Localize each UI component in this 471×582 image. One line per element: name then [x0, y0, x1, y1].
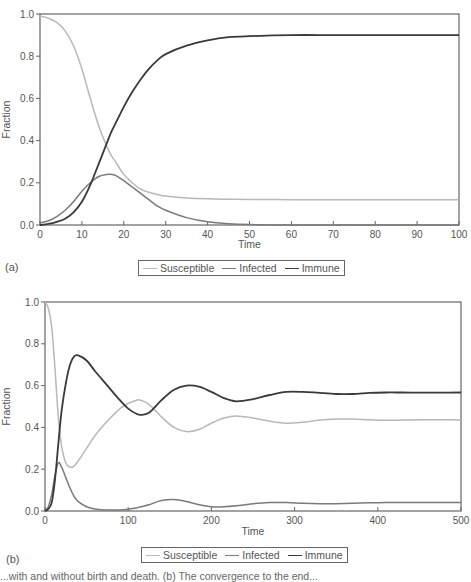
legend-label: Susceptible	[163, 549, 217, 561]
y-tick-label: 0.2	[25, 464, 39, 475]
y-tick-label: 0.0	[25, 506, 39, 517]
chart-a: 0.00.20.40.60.81.00102030405060708090100…	[0, 9, 468, 251]
y-tick-label: 0.4	[20, 135, 34, 146]
legend-item-susceptible: Susceptible	[143, 262, 214, 274]
series-line-infected	[45, 463, 461, 511]
legend-item-immune: Immune	[288, 549, 343, 561]
x-tick-label: 500	[453, 515, 470, 526]
legend-label: Immune	[302, 262, 340, 274]
x-tick-label: 400	[369, 515, 386, 526]
x-axis-title: Time	[238, 238, 261, 250]
legend-swatch-immune	[285, 268, 299, 269]
x-tick-label: 40	[202, 229, 214, 240]
x-tick-label: 70	[328, 229, 340, 240]
x-tick-label: 80	[370, 229, 382, 240]
x-tick-label: 0	[37, 229, 43, 240]
legend-item-susceptible: Susceptible	[146, 549, 217, 561]
legend-swatch-susceptible	[143, 268, 157, 269]
x-tick-label: 200	[203, 515, 220, 526]
x-tick-label: 100	[120, 515, 137, 526]
x-tick-label: 30	[160, 229, 172, 240]
y-tick-label: 1.0	[25, 297, 39, 308]
y-tick-label: 0.0	[20, 220, 34, 231]
legend-item-immune: Immune	[285, 262, 340, 274]
legend-b: Susceptible Infected Immune	[141, 547, 348, 563]
legend-label: Immune	[305, 549, 343, 561]
plot-frame	[40, 14, 459, 225]
y-tick-label: 0.8	[20, 51, 34, 62]
x-tick-label: 20	[118, 229, 130, 240]
legend-label: Infected	[242, 549, 279, 561]
y-tick-label: 1.0	[20, 9, 34, 20]
x-axis-title: Time	[242, 525, 265, 537]
y-tick-label: 0.6	[20, 93, 34, 104]
x-tick-label: 10	[76, 229, 88, 240]
legend-item-infected: Infected	[222, 262, 276, 274]
y-axis-title: Fraction	[0, 100, 12, 138]
legend-label: Susceptible	[160, 262, 214, 274]
x-tick-label: 90	[412, 229, 424, 240]
x-tick-label: 60	[286, 229, 298, 240]
x-tick-label: 100	[451, 229, 468, 240]
plot-frame	[45, 302, 461, 511]
series-line-susceptible	[40, 16, 459, 200]
x-tick-label: 300	[286, 515, 303, 526]
legend-swatch-immune	[288, 555, 302, 556]
legend-swatch-infected	[225, 555, 239, 556]
panel-label-b: (b)	[6, 553, 19, 565]
y-tick-label: 0.8	[25, 338, 39, 349]
series-line-immune	[40, 35, 459, 225]
chart-b: 0.00.20.40.60.81.00100200300400500TimeFr…	[0, 297, 470, 538]
panel-label-a: (a)	[5, 261, 18, 273]
y-tick-label: 0.4	[25, 422, 39, 433]
y-tick-label: 0.6	[25, 380, 39, 391]
y-axis-title: Fraction	[0, 387, 12, 425]
x-tick-label: 0	[42, 515, 48, 526]
y-tick-label: 0.2	[20, 177, 34, 188]
figure-caption: ...with and without birth and death. (b)…	[0, 570, 471, 582]
legend-item-infected: Infected	[225, 549, 279, 561]
legend-swatch-susceptible	[146, 555, 160, 556]
series-line-immune	[45, 355, 461, 511]
legend-swatch-infected	[222, 268, 236, 269]
legend-a: Susceptible Infected Immune	[138, 260, 345, 276]
legend-label: Infected	[239, 262, 276, 274]
